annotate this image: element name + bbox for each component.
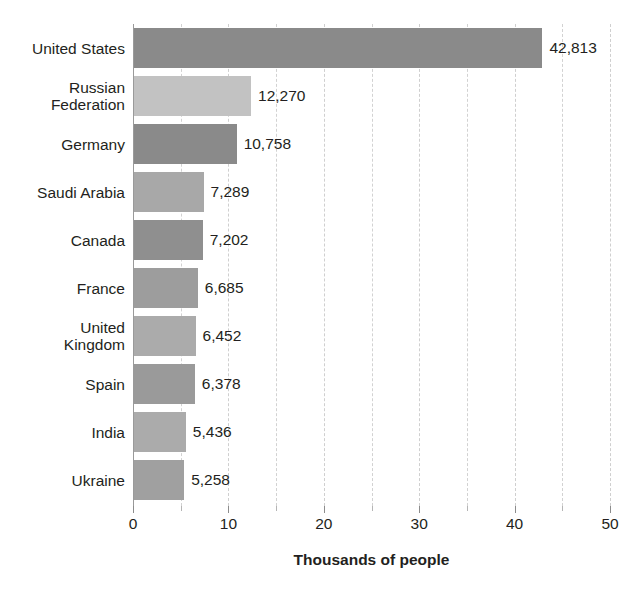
bar-value-label: 6,685	[205, 264, 244, 312]
bar-value-label: 7,289	[211, 168, 250, 216]
horizontal-bar-chart: United States42,813Russian Federation12,…	[0, 0, 637, 593]
x-axis-tick-major	[610, 506, 611, 513]
category-label: Ukraine	[0, 456, 125, 504]
x-axis-tick-major	[228, 506, 229, 513]
category-label: Germany	[0, 120, 125, 168]
x-axis-tick-major	[133, 506, 134, 513]
category-label: Canada	[0, 216, 125, 264]
x-axis: 01020304050	[0, 506, 637, 536]
x-axis-tick-major	[515, 506, 516, 513]
bar[interactable]	[134, 28, 542, 68]
bar-value-label: 7,202	[210, 216, 249, 264]
bar-row: United Kingdom6,452	[0, 312, 637, 360]
x-axis-tick-label: 10	[198, 515, 258, 533]
x-axis-tick-label: 30	[389, 515, 449, 533]
bar-row: Ukraine5,258	[0, 456, 637, 504]
bar[interactable]	[134, 460, 184, 500]
bar[interactable]	[134, 364, 195, 404]
bar-row: Saudi Arabia7,289	[0, 168, 637, 216]
x-axis-tick-major	[419, 506, 420, 513]
x-axis-tick-label: 20	[294, 515, 354, 533]
bar-row: India5,436	[0, 408, 637, 456]
category-label: France	[0, 264, 125, 312]
bar-value-label: 10,758	[244, 120, 291, 168]
bar[interactable]	[134, 268, 198, 308]
x-axis-tick-label: 0	[103, 515, 163, 533]
bar-row: Germany10,758	[0, 120, 637, 168]
category-label: United States	[0, 24, 125, 72]
bar[interactable]	[134, 76, 251, 116]
x-axis-title: Thousands of people	[133, 551, 610, 569]
x-axis-tick-label: 40	[485, 515, 545, 533]
bar-value-label: 6,452	[203, 312, 242, 360]
category-label: United Kingdom	[0, 312, 125, 360]
bar-row: United States42,813	[0, 24, 637, 72]
bar-row: France6,685	[0, 264, 637, 312]
x-axis-tick-minor	[372, 506, 373, 511]
x-axis-tick-minor	[562, 506, 563, 511]
bar[interactable]	[134, 172, 204, 212]
category-label: Saudi Arabia	[0, 168, 125, 216]
bar-rows: United States42,813Russian Federation12,…	[0, 24, 637, 506]
x-axis-tick-minor	[276, 506, 277, 511]
chart-title	[8, 0, 629, 4]
category-label: Russian Federation	[0, 72, 125, 120]
bar-row: Russian Federation12,270	[0, 72, 637, 120]
bar-value-label: 6,378	[202, 360, 241, 408]
bar-value-label: 12,270	[258, 72, 305, 120]
bar[interactable]	[134, 316, 196, 356]
x-axis-tick-minor	[181, 506, 182, 511]
category-label: India	[0, 408, 125, 456]
bar[interactable]	[134, 412, 186, 452]
x-axis-tick-label: 50	[580, 515, 637, 533]
bar-value-label: 5,258	[191, 456, 230, 504]
x-axis-tick-minor	[467, 506, 468, 511]
bar-row: Canada7,202	[0, 216, 637, 264]
bar[interactable]	[134, 124, 237, 164]
bar-row: Spain6,378	[0, 360, 637, 408]
bar-value-label: 42,813	[549, 24, 596, 72]
category-label: Spain	[0, 360, 125, 408]
bar[interactable]	[134, 220, 203, 260]
bar-value-label: 5,436	[193, 408, 232, 456]
x-axis-tick-major	[324, 506, 325, 513]
